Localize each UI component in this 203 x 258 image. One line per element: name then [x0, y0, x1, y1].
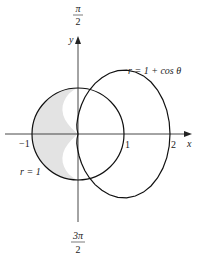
y-axis-label: y: [68, 34, 74, 45]
bottom-angle-numerator: 3π: [72, 230, 84, 241]
cardioid-label: r = 1 + cos θ: [128, 65, 181, 76]
x-axis-label: x: [186, 138, 192, 149]
x-tick-1: 1: [125, 139, 130, 150]
bottom-angle-denominator: 2: [76, 244, 81, 255]
x-axis-arrow-icon: [184, 131, 192, 137]
circle-label: r = 1: [20, 166, 41, 177]
top-angle-numerator: π: [75, 3, 81, 14]
top-angle-denominator: 2: [76, 16, 81, 27]
polar-diagram: π 2 y x −1 1 2 r = 1 + cos θ r = 1 3π 2: [0, 0, 203, 258]
y-axis-arrow-icon: [75, 36, 81, 44]
x-tick-2: 2: [171, 139, 176, 150]
x-tick-neg1: −1: [19, 138, 30, 149]
